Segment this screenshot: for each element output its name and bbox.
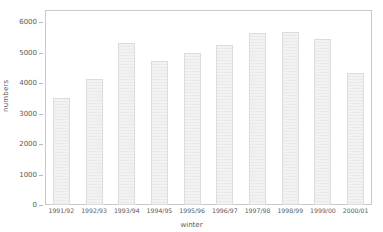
- x-tick-label: 1992/93: [81, 207, 107, 214]
- bar: [151, 61, 168, 205]
- y-tick-label: 6000: [19, 18, 37, 26]
- y-tick-label: 0: [33, 201, 37, 209]
- x-tick-label: 1995/96: [179, 207, 205, 214]
- x-tick-label: 1998/99: [277, 207, 303, 214]
- bar: [118, 43, 135, 205]
- y-tick-mark: [39, 205, 43, 206]
- y-tick-label: 2000: [19, 140, 37, 148]
- bar: [216, 45, 233, 205]
- x-tick-label: 1993/94: [114, 207, 140, 214]
- bar: [86, 79, 103, 205]
- x-tick-label: 1991/92: [48, 207, 74, 214]
- x-tick-label: 1996/97: [212, 207, 238, 214]
- y-tick-label: 1000: [19, 171, 37, 179]
- x-axis-tick-labels: 1991/921992/931993/941994/951995/961996/…: [45, 207, 372, 221]
- y-tick-label: 5000: [19, 49, 37, 57]
- bar: [184, 53, 201, 205]
- y-tick-mark: [39, 114, 43, 115]
- x-tick-label: 1999/00: [310, 207, 336, 214]
- x-axis-title: winter: [0, 221, 383, 229]
- y-tick-mark: [39, 144, 43, 145]
- bars-container: [45, 10, 372, 205]
- bar: [249, 33, 266, 205]
- y-axis-tick-labels: 0100020003000400050006000: [0, 0, 45, 232]
- bar: [53, 98, 70, 205]
- y-tick-mark: [39, 83, 43, 84]
- bar: [282, 32, 299, 205]
- x-tick-label: 1994/95: [147, 207, 173, 214]
- bar: [314, 39, 331, 205]
- bar: [347, 73, 364, 205]
- y-tick-label: 4000: [19, 79, 37, 87]
- y-tick-mark: [39, 22, 43, 23]
- y-tick-label: 3000: [19, 110, 37, 118]
- x-tick-label: 2000/01: [343, 207, 369, 214]
- y-tick-mark: [39, 53, 43, 54]
- x-tick-label: 1997/98: [245, 207, 271, 214]
- y-tick-mark: [39, 175, 43, 176]
- bar-chart: numbers 0100020003000400050006000 1991/9…: [0, 0, 383, 232]
